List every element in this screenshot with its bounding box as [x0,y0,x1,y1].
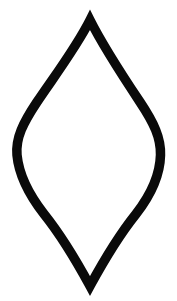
drawing-canvas: Leaf Outline Shape Black outlined pointe… [0,0,177,301]
canvas-background [0,0,177,301]
leaf-figure: Leaf Outline Shape [0,0,177,301]
